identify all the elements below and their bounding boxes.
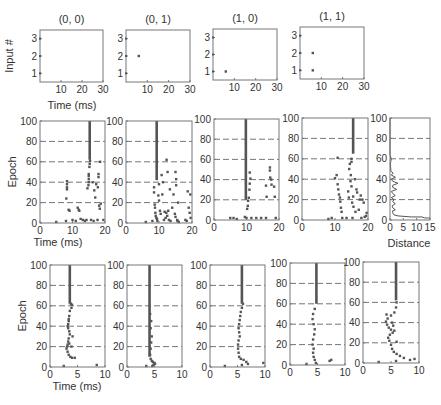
y-tick-marker [125,72,127,74]
data-point [153,186,155,188]
y-tick-label: 0 [31,218,37,229]
axes-frame [213,29,277,80]
data-point [237,327,239,329]
data-point [387,337,389,339]
data-point [312,52,314,54]
x-tick-label: 20 [337,81,349,92]
data-point [158,199,160,201]
data-point [151,335,153,337]
data-point [312,352,314,354]
data-point [158,183,160,185]
data-point [335,174,337,176]
data-point [66,180,68,182]
panel-bot-4: 0510020406080100 [343,257,425,377]
data-point [188,212,190,214]
data-point [189,193,191,195]
y-tick-label: 20 [276,339,288,350]
panel-top-0: 102030123(0, 0) [31,13,109,95]
x-tick-label: 20 [250,82,262,93]
x-tick-label: 20 [163,84,175,95]
data-point [395,301,397,303]
data-point [171,207,173,209]
x-tick-label: 10 [55,84,67,95]
data-point [188,207,190,209]
y-tick-label: 20 [200,194,212,205]
y-tick-label: 100 [282,113,299,124]
data-point [156,220,158,222]
y-tick-label: 40 [113,321,125,332]
x-tick-label: 10 [142,84,154,95]
x-tick-label: 0 [47,369,53,380]
data-point [361,198,363,200]
x-tick-label: 10 [229,82,241,93]
data-point [350,174,352,176]
y-tick-label: 40 [26,177,38,188]
data-point [79,218,81,220]
y-tick-marker [212,54,214,56]
data-point [270,183,272,185]
y-tick-label: 40 [196,321,208,332]
top-ylabel: Input # [3,38,15,73]
data-point [340,211,342,213]
data-point [365,215,367,217]
data-point [150,341,152,343]
data-point [240,311,242,313]
x-tick-label: 0 [299,222,305,233]
middle-ylabel: Epoch [6,156,18,187]
axes-frame [40,30,103,82]
x-tick-label: 0 [123,225,129,236]
data-point [160,174,162,176]
data-point [86,187,88,189]
data-point [70,307,72,309]
data-point [237,339,239,341]
data-point [248,197,250,199]
data-point [314,308,316,310]
data-point [395,360,397,362]
data-point [172,193,174,195]
data-point [265,217,267,219]
data-point [95,183,97,185]
data-point [97,186,99,188]
data-point [351,217,353,219]
data-point [102,219,104,221]
data-point [413,358,415,360]
y-tick-label: 40 [200,174,212,185]
data-point [255,217,257,219]
data-point [174,216,176,218]
x-tick-label: 10 [339,367,351,378]
x-tick-label: 5 [315,367,321,378]
data-point [312,69,314,71]
y-tick-marker [39,38,41,40]
data-point [159,210,161,212]
data-point [390,328,392,330]
data-point [65,197,67,199]
data-point [393,311,395,313]
data-point [175,178,177,180]
axes-frame [126,30,190,82]
x-tick-label: 30 [97,84,109,95]
data-point [239,319,241,321]
data-point [74,357,76,359]
data-point [312,323,314,325]
data-point [177,201,179,203]
data-point [90,219,92,221]
data-point [385,320,387,322]
data-point [313,333,315,335]
data-point [99,161,101,163]
y-tick-label: 40 [376,174,388,185]
data-point [149,313,151,315]
data-point [391,321,393,323]
x-tick-label: 15 [424,222,436,233]
y-tick-label: 60 [112,156,124,167]
data-point [269,169,271,171]
data-point [68,210,70,212]
y-tick-marker [212,71,214,73]
data-point [69,333,71,335]
data-point [229,217,231,219]
y-tick-label: 60 [196,300,208,311]
data-point [71,219,73,221]
data-point [311,318,313,320]
data-point [247,363,249,365]
data-point [389,334,391,336]
y-tick-label: 0 [281,360,287,371]
